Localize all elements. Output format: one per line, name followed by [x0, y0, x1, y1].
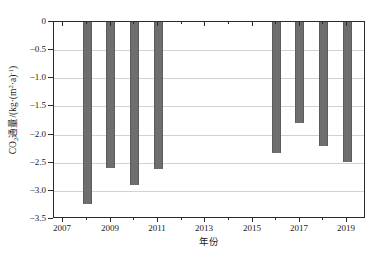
- x-tick-mark-top: [346, 22, 347, 26]
- y-tick-mark: [48, 105, 53, 106]
- x-tick-mark-top: [62, 22, 63, 26]
- bar-2009: [106, 22, 115, 168]
- gridline: [54, 50, 364, 51]
- bar-2010: [130, 22, 139, 185]
- bar-2011: [154, 22, 163, 169]
- bar-2019: [343, 22, 352, 162]
- co2-flux-bar-chart: CO2通量/(kg·(m2·a)-1) 0−0.5−1.0−1.5−2.0−2.…: [0, 0, 378, 258]
- y-tick-label: −2.5: [6, 158, 46, 167]
- x-tick-mark: [252, 218, 253, 222]
- y-tick-mark: [48, 49, 53, 50]
- x-minor-tick-mark-top: [322, 22, 323, 24]
- x-tick-mark-top: [252, 22, 253, 26]
- x-minor-tick-mark-top: [133, 22, 134, 24]
- x-minor-tick-mark-top: [181, 22, 182, 24]
- x-tick-mark-top: [299, 22, 300, 26]
- y-tick-label: −0.5: [6, 45, 46, 54]
- x-tick-mark: [299, 218, 300, 222]
- x-tick-label: 2017: [279, 224, 319, 233]
- bar-2017: [295, 22, 304, 123]
- y-tick-mark: [48, 218, 53, 219]
- y-tick-label: −1.5: [6, 101, 46, 110]
- y-tick-mark: [48, 21, 53, 22]
- x-tick-label: 2015: [232, 224, 272, 233]
- x-tick-mark-top: [157, 22, 158, 26]
- y-tick-mark: [48, 190, 53, 191]
- x-minor-tick-mark-top: [228, 22, 229, 24]
- gridline: [54, 191, 364, 192]
- x-minor-tick-mark: [133, 218, 134, 220]
- bar-2016: [272, 22, 281, 153]
- x-tick-label: 2019: [326, 224, 366, 233]
- x-tick-mark-top: [110, 22, 111, 26]
- y-tick-mark: [48, 162, 53, 163]
- x-tick-mark: [204, 218, 205, 222]
- x-tick-mark: [346, 218, 347, 222]
- x-tick-label: 2007: [42, 224, 82, 233]
- x-minor-tick-mark-top: [275, 22, 276, 24]
- x-tick-label: 2009: [90, 224, 130, 233]
- y-tick-label: 0: [6, 17, 46, 26]
- x-tick-mark: [157, 218, 158, 222]
- y-tick-mark: [48, 134, 53, 135]
- x-tick-mark-top: [204, 22, 205, 26]
- x-minor-tick-mark: [181, 218, 182, 220]
- y-tick-label: −2.0: [6, 130, 46, 139]
- y-axis-title-superscript-area: 2: [7, 85, 14, 88]
- gridline: [54, 135, 364, 136]
- x-minor-tick-mark: [322, 218, 323, 220]
- y-tick-mark: [48, 77, 53, 78]
- y-tick-label: −3.5: [6, 214, 46, 223]
- x-tick-label: 2013: [184, 224, 224, 233]
- gridline: [54, 106, 364, 107]
- x-tick-label: 2011: [137, 224, 177, 233]
- plot-area: [53, 21, 365, 218]
- y-tick-label: −3.0: [6, 186, 46, 195]
- x-axis-title: 年份: [53, 238, 365, 248]
- x-minor-tick-mark: [228, 218, 229, 220]
- x-tick-mark: [110, 218, 111, 222]
- gridline: [54, 163, 364, 164]
- bar-2018: [319, 22, 328, 146]
- gridline: [54, 78, 364, 79]
- bar-2008: [83, 22, 92, 204]
- x-minor-tick-mark: [86, 218, 87, 220]
- x-minor-tick-mark-top: [86, 22, 87, 24]
- y-tick-label: −1.0: [6, 73, 46, 82]
- x-tick-mark: [62, 218, 63, 222]
- x-minor-tick-mark: [275, 218, 276, 220]
